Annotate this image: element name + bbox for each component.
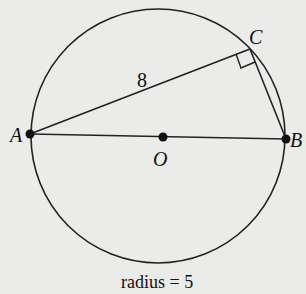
label-c: C: [249, 26, 263, 48]
circle-diagram: A B C O 8 radius = 5: [0, 0, 306, 294]
diameter-ab: [30, 134, 286, 139]
label-ac-length: 8: [137, 69, 147, 91]
chord-cb: [250, 49, 286, 139]
label-a: A: [8, 124, 23, 146]
caption-radius: radius = 5: [121, 272, 193, 292]
chord-ac: [30, 49, 250, 134]
label-b: B: [290, 129, 302, 151]
label-o: O: [153, 148, 167, 170]
point-o-dot: [159, 133, 168, 142]
point-a-dot: [26, 130, 35, 139]
